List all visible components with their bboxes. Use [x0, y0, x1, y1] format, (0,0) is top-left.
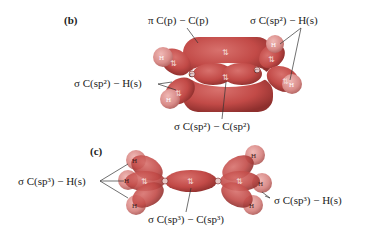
- svg-text:⇅: ⇅: [187, 177, 194, 186]
- svg-text:H: H: [132, 157, 137, 165]
- carbon-atom: [162, 178, 168, 184]
- svg-text:⇅: ⇅: [222, 73, 229, 82]
- svg-text:⇅: ⇅: [222, 48, 229, 57]
- carbon-atom: [215, 178, 221, 184]
- svg-text:⇅: ⇅: [282, 77, 289, 86]
- svg-text:H: H: [251, 152, 256, 160]
- label-sigma-cc-b: σ C(sp²) − C(sp²): [174, 121, 250, 132]
- svg-text:H: H: [159, 54, 164, 62]
- svg-text:H: H: [166, 96, 171, 104]
- svg-text:H: H: [124, 177, 129, 185]
- label-sigma-ch-left-b: σ C(sp²) − H(s): [74, 78, 142, 89]
- svg-text:⇅: ⇅: [175, 89, 182, 98]
- svg-text:H: H: [289, 81, 294, 89]
- label-sigma-ch-right-b: σ C(sp²) − H(s): [250, 15, 318, 26]
- svg-text:⇅: ⇅: [170, 59, 177, 68]
- svg-text:H: H: [249, 202, 254, 210]
- svg-text:H: H: [132, 202, 137, 210]
- svg-text:H: H: [271, 41, 276, 49]
- label-pi-bond: π C(p) − C(p): [148, 15, 208, 26]
- svg-text:C: C: [254, 67, 259, 75]
- svg-text:C: C: [189, 71, 194, 79]
- svg-text:⇅: ⇅: [236, 177, 243, 186]
- label-sigma-ch-left-c: σ C(sp³) − H(s): [18, 176, 86, 187]
- svg-text:H: H: [258, 180, 263, 188]
- svg-text:⇅: ⇅: [141, 177, 148, 186]
- label-sigma-ch-right-c: σ C(sp³) − H(s): [274, 195, 342, 206]
- label-sigma-cc-c: σ C(sp³) − C(sp³): [148, 214, 224, 225]
- svg-text:⇅: ⇅: [268, 55, 275, 64]
